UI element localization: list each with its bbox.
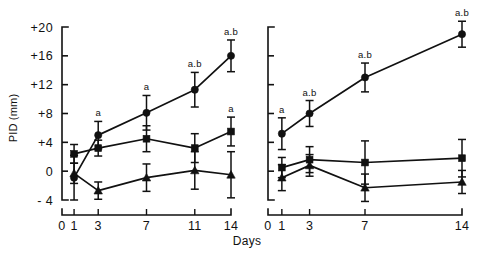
significance-label-right-series-1-1: a.b [303,87,317,98]
significance-label-right-series-1-3: a.b [455,7,469,18]
y-axis-label: PID (mm) [7,94,19,143]
x-tick-label-left-2: 3 [95,219,102,233]
x-tick-label-right-3: 7 [361,219,368,233]
data-point-left-series-1-4 [227,52,234,59]
y-tick-label-2: +12 [31,78,53,92]
data-point-left-series-1-1 [95,132,102,139]
data-point-left-series-1-3 [191,86,198,93]
scientific-line-chart: +20+16+12+8+40- 4PID (mm)Days01371114aaa… [0,0,488,270]
y-tick-label-4: +4 [38,136,53,150]
data-point-right-series-1-2 [361,74,368,81]
x-tick-label-left-0: 0 [58,219,65,233]
y-tick-label-3: +8 [38,107,53,121]
significance-label-right-series-1-0: a [279,104,285,115]
data-point-left-series-2-1 [95,145,102,152]
significance-label-left-series-1-3: a.b [188,58,202,69]
data-point-right-series-1-1 [306,110,313,117]
data-point-right-series-1-3 [458,31,465,38]
x-tick-label-left-5: 14 [224,219,239,233]
significance-label-right-series-1-2: a.b [358,49,372,60]
data-point-left-series-2-0 [71,150,78,157]
data-point-left-series-1-2 [143,109,150,116]
x-tick-label-left-3: 7 [143,219,150,233]
data-point-right-series-1-0 [278,130,285,137]
x-tick-label-right-4: 14 [455,219,470,233]
significance-label-left-series-1-1: a [95,107,101,118]
y-tick-label-1: +16 [31,49,53,63]
y-tick-label-6: - 4 [37,194,53,208]
data-point-left-series-2-2 [143,135,150,142]
y-tick-label-0: +20 [31,21,53,35]
significance-label-left-series-1-2: a [144,81,150,92]
data-point-right-series-2-2 [362,159,369,166]
x-tick-label-right-2: 3 [306,219,313,233]
data-point-left-series-2-3 [191,145,198,152]
x-axis-label: Days [233,234,262,248]
panel-left [62,27,235,215]
x-tick-label-left-1: 1 [70,219,77,233]
significance-label-left-series-1-4: a.b [224,26,238,37]
figure-container: +20+16+12+8+40- 4PID (mm)Days01371114aaa… [0,0,488,270]
y-tick-label-5: 0 [46,165,53,179]
data-point-right-series-2-3 [459,155,466,162]
x-tick-label-right-0: 0 [264,219,271,233]
data-point-left-series-2-4 [228,128,235,135]
x-tick-label-right-1: 1 [278,219,285,233]
significance-label-left-series-2-4: a [228,103,234,114]
x-tick-label-left-4: 11 [188,219,202,233]
